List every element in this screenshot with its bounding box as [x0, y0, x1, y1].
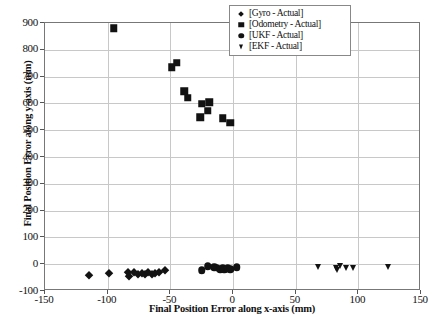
- gridline-vertical: [296, 23, 297, 289]
- legend-item-label: [Gyro - Actual]: [249, 8, 303, 19]
- data-point: [315, 264, 321, 270]
- x-axis-tick-mark: [357, 290, 358, 294]
- legend-item: [EKF - Actual]: [233, 41, 347, 52]
- y-axis-tick-label: 900: [0, 17, 38, 28]
- x-axis-tick-mark: [169, 290, 170, 294]
- data-point: [163, 267, 169, 273]
- circle-marker-icon: [233, 30, 249, 41]
- data-point: [106, 270, 112, 276]
- y-axis-tick-label: 800: [0, 43, 38, 54]
- data-point: [385, 264, 391, 270]
- diamond-marker-icon: [233, 8, 249, 19]
- data-point: [197, 114, 205, 122]
- data-point: [205, 98, 213, 106]
- x-axis-tick-label: 100: [334, 294, 380, 305]
- y-axis-tick-label: 300: [0, 177, 38, 188]
- y-axis-tick-label: 0: [0, 258, 38, 269]
- gridline-horizontal: [45, 184, 419, 185]
- data-point: [343, 265, 349, 271]
- y-axis-tick-label: 700: [0, 70, 38, 81]
- legend-item: [Gyro - Actual]: [233, 8, 347, 19]
- triangle-down-marker-icon: [233, 41, 249, 52]
- gridline-vertical: [358, 23, 359, 289]
- data-point: [337, 263, 343, 269]
- legend-item: [Odometry - Actual]: [233, 19, 347, 30]
- y-axis-tick-label: 200: [0, 204, 38, 215]
- y-axis-tick-label: 500: [0, 124, 38, 135]
- plot-area: [44, 22, 420, 290]
- x-axis-tick-mark: [44, 290, 45, 294]
- x-axis-tick-label: -150: [21, 294, 67, 305]
- gridline-vertical: [233, 23, 234, 289]
- data-point: [173, 59, 181, 67]
- legend-item-label: [EKF - Actual]: [249, 41, 302, 52]
- data-point: [184, 94, 192, 102]
- x-axis-tick-mark: [232, 290, 233, 294]
- data-point: [219, 114, 227, 122]
- x-axis-tick-label: -100: [84, 294, 130, 305]
- gridline-horizontal: [45, 157, 419, 158]
- y-axis-tick-label: 600: [0, 97, 38, 108]
- legend-item-label: [Odometry - Actual]: [249, 19, 321, 30]
- gridline-horizontal: [45, 211, 419, 212]
- gridline-horizontal: [45, 237, 419, 238]
- gridline-vertical: [108, 23, 109, 289]
- y-axis-tick-label: 100: [0, 231, 38, 242]
- gridline-horizontal: [45, 130, 419, 131]
- data-point: [86, 272, 92, 278]
- gridline-horizontal: [45, 77, 419, 78]
- square-marker-icon: [233, 19, 249, 30]
- x-axis-tick-label: -50: [146, 294, 192, 305]
- gridline-horizontal: [45, 103, 419, 104]
- scatter-chart-figure: Final Position Error along y-axis (mm) F…: [0, 0, 435, 320]
- data-point: [350, 265, 356, 271]
- data-point: [233, 264, 241, 272]
- x-axis-tick-label: 150: [397, 294, 435, 305]
- x-axis-tick-mark: [107, 290, 108, 294]
- data-point: [204, 107, 212, 115]
- x-axis-tick-mark: [295, 290, 296, 294]
- x-axis-tick-label: 0: [209, 294, 255, 305]
- x-axis-tick-mark: [420, 290, 421, 294]
- x-axis-tick-label: 50: [272, 294, 318, 305]
- legend-box: [Gyro - Actual] [Odometry - Actual] [UKF…: [229, 5, 351, 56]
- legend-item: [UKF - Actual]: [233, 30, 347, 41]
- data-point: [227, 119, 235, 127]
- legend-item-label: [UKF - Actual]: [249, 30, 303, 41]
- y-axis-tick-label: 400: [0, 151, 38, 162]
- data-point: [110, 25, 118, 33]
